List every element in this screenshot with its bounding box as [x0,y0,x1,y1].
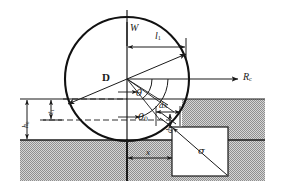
label-t-glyph: t [46,112,55,114]
label-angle-theta0: θ0 [138,112,148,122]
label-element-dx: dx [159,101,168,110]
label-l-subscript: 1 [158,34,161,41]
label-stress-sigma: σ [198,146,205,156]
label-element-dy: dy [166,125,174,133]
label-angle-theta: θ [136,88,142,98]
label-theta0-subscript: 0 [144,115,148,122]
label-t-subscript: 1 [50,109,55,111]
label-roll-force-Rc: Rc [243,72,252,82]
label-contact-length-l1: l1 [155,31,161,41]
center-dashed-lines [40,99,170,120]
label-load-W: W [130,23,138,33]
label-roll-diameter-D: D [102,72,110,83]
label-R-subscript: c [249,75,252,82]
label-h-glyph: h [21,124,30,128]
label-h-subscript: 0 [25,122,30,124]
rolling-contact-diagram: W l1 D Rc θ θ0 dx dy σ x t1 h0 [0,0,284,192]
label-thickness-h0: h0 [22,122,31,128]
label-coordinate-x: x [146,148,150,157]
label-thickness-t1: t1 [47,109,56,114]
